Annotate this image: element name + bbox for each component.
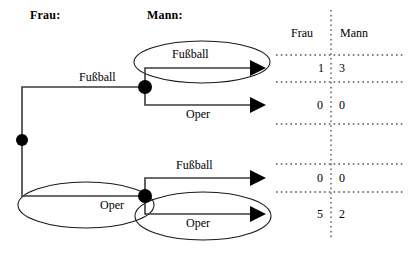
table-header-frau: Frau bbox=[291, 26, 313, 41]
node-mann-top bbox=[138, 80, 152, 94]
node-mann-bottom bbox=[138, 189, 152, 203]
edge-top-fussball bbox=[145, 68, 251, 87]
figure-canvas: Frau: Mann: Fußball Fußball Oper Fußball… bbox=[0, 0, 409, 253]
edge-bottom-fussball bbox=[145, 178, 251, 196]
edge-label-trunk-oper: Oper bbox=[100, 198, 124, 213]
table-cell-mann-row3: 0 bbox=[339, 171, 345, 186]
edge-trunk-upper bbox=[22, 87, 145, 140]
arrowhead-bottom-oper bbox=[250, 206, 266, 222]
arrowhead-top-oper bbox=[250, 97, 266, 113]
edge-label-trunk-fussball: Fußball bbox=[79, 70, 116, 85]
edge-label-bottom-oper: Oper bbox=[186, 216, 210, 231]
edge-label-top-fussball: Fußball bbox=[172, 47, 209, 62]
table-cell-mann-row1: 3 bbox=[339, 61, 345, 76]
ellipse-frau-oper-bottom bbox=[18, 182, 154, 228]
player-header-mann: Mann: bbox=[147, 8, 183, 23]
table-cell-frau-row4: 5 bbox=[317, 207, 323, 222]
player-header-frau: Frau: bbox=[30, 8, 60, 23]
table-cell-frau-row1: 1 bbox=[318, 61, 324, 76]
table-cell-mann-row2: 0 bbox=[339, 98, 345, 113]
edge-bottom-oper bbox=[145, 196, 251, 214]
edge-label-top-oper: Oper bbox=[186, 107, 210, 122]
node-root-frau bbox=[16, 134, 28, 146]
edge-label-bottom-fussball: Fußball bbox=[176, 158, 213, 173]
table-cell-frau-row3: 0 bbox=[317, 171, 323, 186]
edge-top-oper bbox=[145, 87, 251, 105]
table-cell-mann-row4: 2 bbox=[339, 207, 345, 222]
table-header-mann: Mann bbox=[340, 26, 368, 41]
arrowhead-bottom-fussball bbox=[250, 170, 266, 186]
table-cell-frau-row2: 0 bbox=[317, 98, 323, 113]
